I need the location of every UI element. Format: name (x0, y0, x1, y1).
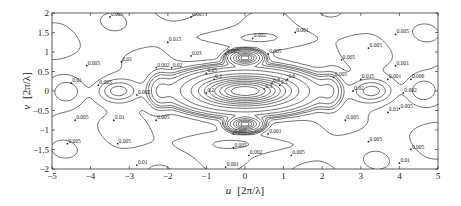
x-tick-label: 1 (281, 171, 286, 181)
contour-label: 0.02 (354, 85, 364, 91)
contour-label: 0.01 (115, 114, 125, 120)
contour-label: 0.005 (88, 60, 101, 66)
x-tick-label: 0 (243, 171, 248, 181)
x-tick-label: −2 (163, 171, 173, 181)
contour-label: 0.01 (122, 56, 132, 62)
contour-label: 0.001 (269, 128, 282, 134)
contour-level-0.7 (220, 83, 271, 99)
contour-label: 0.01 (72, 77, 82, 83)
x-tick-label: 2 (320, 171, 325, 181)
contour-label: 0.005 (99, 79, 112, 85)
contour-label: 0.005 (370, 42, 383, 48)
contour-level-0.02 (110, 48, 379, 134)
y-tick-label: 1 (45, 47, 50, 57)
contour-label: 0.005 (234, 142, 247, 148)
contour-label: 0.015 (362, 73, 375, 79)
x-axis-label: u[2π/λ] (226, 184, 264, 196)
contour-label: 0.005 (292, 149, 305, 155)
y-tick-label: 2 (45, 8, 50, 18)
y-tick-label: −1.5 (33, 145, 50, 155)
contour-label: 0.005 (397, 28, 410, 34)
contour-label: 0.01 (138, 159, 148, 165)
x-tick-label: 5 (436, 171, 441, 181)
contour-label: 0.015 (169, 36, 182, 42)
contour-label: 0.01 (389, 106, 399, 112)
contour-label: 0.02 (173, 62, 183, 68)
contour-plot: 0.0050.0050.0150.0020.0010.030.0050.0050… (0, 0, 461, 206)
contour-label: 0.005 (269, 48, 282, 54)
contour-label: 0.005 (227, 48, 240, 54)
x-tick-label: −4 (86, 171, 96, 181)
contour-label: 0.002 (250, 149, 263, 155)
x-axis-ticks: −5−4−3−2−1012345 (47, 13, 441, 181)
contour-label: 0.005 (412, 144, 425, 150)
y-tick-label: −1 (39, 125, 49, 135)
y-tick-label: 1.5 (38, 28, 50, 38)
contour-label: 0.005 (370, 136, 383, 142)
contour-label: 0.005 (343, 54, 356, 60)
y-tick-label: −2 (39, 164, 49, 174)
contour-label: 0.005 (335, 71, 348, 77)
contour-label: 0.1 (215, 73, 222, 79)
y-tick-label: 0 (45, 86, 50, 96)
contour-label: 0.5 (281, 79, 288, 85)
y-tick-label: −0.5 (33, 106, 50, 116)
contour-label: 0.002 (254, 32, 267, 38)
contour-level-0.05 (156, 50, 334, 132)
y-tick-label: 0.5 (38, 67, 50, 77)
contour-label: 0.005 (68, 138, 81, 144)
contour-label: 0.6 (288, 73, 295, 79)
contour-label: 0.005 (346, 114, 359, 120)
contour-label: 0.006 (412, 73, 425, 79)
contour-label: 0.002 (157, 62, 170, 68)
contour-label: 0.001 (389, 73, 402, 79)
contour-label: 0.2 (207, 87, 214, 93)
contour-label: 0.002 (138, 89, 151, 95)
contour-label: 0.002 (404, 87, 417, 93)
contour-label: 0.005 (111, 11, 124, 17)
contour-label: 0.01 (400, 157, 410, 163)
contour-label: 0.005 (76, 114, 89, 120)
y-axis-label: v[2π/λ] (20, 72, 32, 110)
contour-label: 0.001 (397, 60, 410, 66)
contour-label: 0.001 (227, 161, 240, 167)
contour-label: 0.3 (265, 83, 272, 89)
contour-label: 0.002 (234, 128, 247, 134)
y-axis-ticks: 21.510.50−0.5−1−1.5−2 (33, 8, 438, 174)
contour-label: 0.001 (296, 27, 309, 33)
x-tick-label: −1 (202, 171, 212, 181)
contour-label: 0.005 (157, 114, 170, 120)
contour-label: 0.03 (192, 50, 202, 56)
x-tick-label: 3 (359, 171, 364, 181)
contour-label: 0.005 (192, 11, 205, 17)
contour-label: 0.005 (400, 103, 413, 109)
contour-level-0.9 (231, 87, 259, 96)
x-tick-label: 4 (397, 171, 402, 181)
contour-label: 0.8 (273, 77, 280, 83)
contour-label: 0.005 (119, 138, 132, 144)
x-tick-label: −3 (124, 171, 134, 181)
contour-level-0.4 (204, 55, 285, 127)
